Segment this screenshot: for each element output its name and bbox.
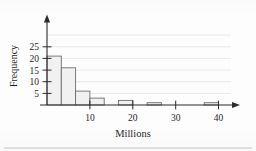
x-tick-labels: 10 20 30 40 — [85, 113, 223, 123]
histogram-figure: 5 10 15 20 25 10 20 30 40 Millions Frequ… — [0, 0, 256, 151]
x-tick-label-2: 30 — [171, 113, 181, 123]
y-tick-label-1: 10 — [30, 77, 40, 87]
y-tick-label-3: 20 — [30, 54, 40, 64]
bar-bin-6 — [119, 100, 133, 105]
bar-series — [47, 56, 219, 105]
y-tick-label-2: 15 — [30, 66, 40, 76]
bar-bin-1 — [47, 56, 61, 105]
bar-bin-2 — [61, 68, 75, 105]
y-axis-title: Frequency — [8, 45, 19, 87]
x-tick-label-1: 20 — [128, 113, 138, 123]
x-axis-title: Millions — [115, 128, 151, 139]
histogram-chart: 5 10 15 20 25 10 20 30 40 Millions Frequ… — [0, 0, 256, 151]
bar-bin-4 — [90, 98, 104, 105]
x-tick-label-0: 10 — [85, 113, 95, 123]
y-tick-labels: 5 10 15 20 25 — [30, 42, 40, 99]
y-tick-label-4: 25 — [30, 42, 40, 52]
bar-bin-3 — [76, 91, 90, 105]
x-tick-label-3: 40 — [214, 113, 224, 123]
y-tick-label-0: 5 — [34, 89, 39, 99]
